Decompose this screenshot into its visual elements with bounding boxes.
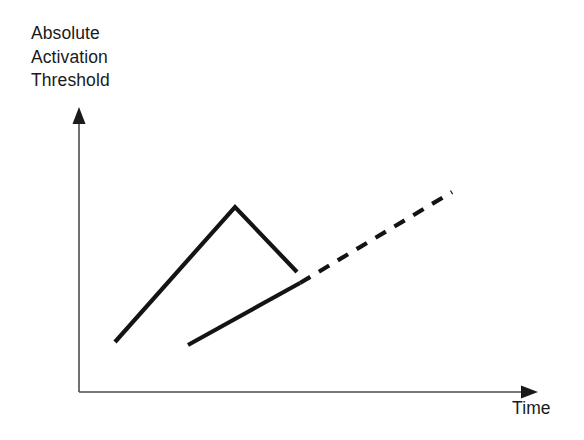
y-axis-arrow-icon (73, 107, 86, 124)
series-projected-threshold-line (300, 192, 452, 283)
series-trained-threshold-line (188, 283, 300, 345)
y-axis-title: Absolute Activation Threshold (31, 22, 231, 93)
chart-figure: Absolute Activation Threshold Time (0, 0, 584, 440)
x-axis-title: Time (512, 397, 582, 421)
series-untrained-threshold-line (115, 207, 297, 342)
